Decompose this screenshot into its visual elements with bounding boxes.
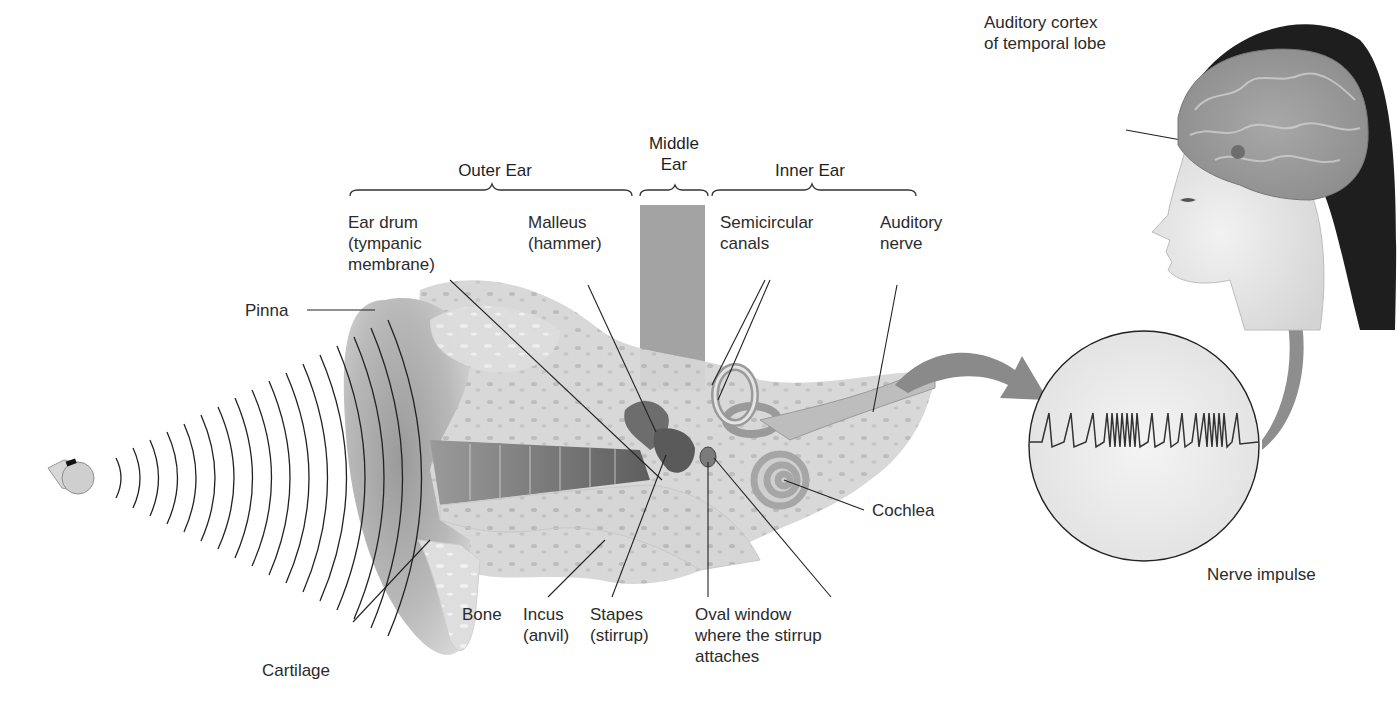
label-malleus: Malleus (hammer) — [528, 212, 602, 254]
human-head-profile — [1152, 24, 1396, 330]
label-bone: Bone — [462, 604, 502, 625]
label-auditory-nerve: Auditory nerve — [880, 212, 942, 254]
section-label-inner-ear: Inner Ear — [750, 160, 870, 181]
section-brackets — [350, 184, 916, 196]
label-auditory-cortex: Auditory cortex of temporal lobe — [984, 12, 1106, 54]
label-ear-drum: Ear drum (tympanic membrane) — [348, 212, 435, 275]
label-incus: Incus (anvil) — [523, 604, 569, 646]
label-stapes: Stapes (stirrup) — [590, 604, 649, 646]
label-pinna: Pinna — [245, 300, 288, 321]
auditory-cortex-spot — [1231, 145, 1245, 159]
nerve-impulse-inset — [1029, 331, 1259, 561]
label-cartilage: Cartilage — [262, 660, 330, 681]
label-cochlea: Cochlea — [872, 500, 934, 521]
label-semicircular-canals: Semicircular canals — [720, 212, 814, 254]
ear-diagram: Outer Ear Middle Ear Inner Ear Ear drum … — [0, 0, 1398, 716]
section-label-outer-ear: Outer Ear — [430, 160, 560, 181]
whistle-icon — [48, 458, 94, 494]
section-label-middle-ear: Middle Ear — [632, 133, 716, 175]
label-oval-window: Oval window where the stirrup attaches — [695, 604, 822, 667]
label-nerve-impulse: Nerve impulse — [1207, 564, 1316, 585]
cochlea-shape — [754, 454, 806, 506]
